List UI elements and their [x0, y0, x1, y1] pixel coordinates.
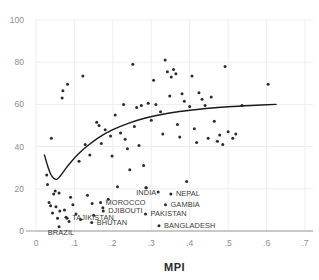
scatter-point — [56, 217, 59, 220]
scatter-point — [137, 144, 140, 147]
scatter-point — [131, 63, 134, 66]
scatter-point — [71, 203, 74, 206]
scatter-point — [170, 75, 173, 78]
scatter-point — [227, 130, 230, 133]
scatter-point — [49, 204, 52, 207]
country-label-gambia: GAMBIA — [171, 200, 200, 209]
scatter-point — [66, 83, 69, 86]
scatter-point — [204, 104, 207, 107]
scatter-point — [58, 209, 61, 212]
scatter-point — [100, 142, 103, 145]
scatter-point — [91, 202, 94, 205]
scatter-point — [267, 83, 270, 86]
annotation-layer: INDIANEPALGAMBIAPAKISTANBANGLADESHMOROCC… — [48, 186, 216, 237]
scatter-point — [86, 194, 89, 197]
scatter-point — [61, 97, 64, 100]
scatter-point — [95, 121, 98, 124]
scatter-point — [234, 132, 237, 135]
scatter-point — [50, 137, 53, 140]
scatter-points-layer — [45, 59, 269, 223]
scatter-point — [164, 59, 167, 62]
scatter-point — [201, 98, 204, 101]
y-tick-label: 100 — [10, 15, 24, 25]
scatter-point — [183, 100, 186, 103]
scatter-point — [109, 135, 112, 138]
scatter-point — [159, 110, 162, 113]
scatter-point — [216, 140, 219, 143]
scatter-point — [185, 180, 188, 183]
scatter-point — [224, 65, 227, 68]
scatter-point — [218, 134, 221, 137]
country-label-pakistan: PAKISTAN — [151, 209, 187, 218]
annotated-point-morocco — [99, 201, 102, 204]
country-label-bangladesh: BANGLADESH — [164, 221, 216, 230]
scatter-point — [124, 138, 127, 141]
scatter-point — [221, 143, 224, 146]
x-tick-label: .2 — [109, 238, 116, 248]
scatter-point — [88, 154, 91, 157]
scatter-point — [81, 74, 84, 77]
scatter-point — [51, 212, 54, 215]
scatter-point — [116, 185, 119, 188]
country-label-tajikistan: TAJIKISTAN — [72, 213, 114, 222]
scatter-point — [61, 89, 64, 92]
scatter-point — [157, 190, 160, 193]
annotated-point-pakistan — [144, 213, 147, 216]
annotated-point-gambia — [164, 203, 167, 206]
x-tick-label: .3 — [148, 238, 155, 248]
scatter-point — [195, 141, 198, 144]
annotated-point-bangladesh — [157, 224, 160, 227]
scatter-point — [168, 94, 171, 97]
scatter-point — [101, 206, 104, 209]
scatter-point — [119, 131, 122, 134]
scatter-point — [176, 123, 179, 126]
scatter-point — [54, 205, 57, 208]
scatter-point — [128, 168, 131, 171]
country-label-india: INDIA — [136, 188, 156, 197]
scatter-point — [193, 127, 196, 130]
axis-layer — [26, 20, 313, 231]
scatter-point — [58, 192, 61, 195]
scatter-point — [207, 137, 210, 140]
mpi-scatter-chart: 0204060801000.1.2.3.4.5.6.7 INDIANEPALGA… — [0, 0, 319, 280]
axis-title-layer: MPI — [164, 261, 185, 273]
country-label-nepal: NEPAL — [176, 189, 200, 198]
lowess-fit-curve — [44, 104, 276, 179]
y-tick-label: 60 — [15, 99, 25, 109]
scatter-point — [45, 174, 48, 177]
scatter-point — [114, 113, 117, 116]
fit-curve-layer — [44, 104, 276, 179]
scatter-point — [150, 119, 153, 122]
country-label-brazil: BRAZIL — [48, 228, 74, 237]
scatter-point — [152, 79, 155, 82]
scatter-point — [133, 125, 136, 128]
scatter-point — [63, 208, 66, 211]
x-tick-label: .4 — [186, 238, 193, 248]
annotated-point-djibouti — [102, 209, 105, 212]
scatter-point — [210, 96, 213, 99]
scatter-point — [188, 105, 191, 108]
scatter-point — [84, 143, 87, 146]
scatter-point — [104, 128, 107, 131]
scatter-point — [191, 74, 194, 77]
scatter-point — [78, 160, 81, 163]
scatter-point — [126, 147, 129, 150]
scatter-point — [172, 68, 175, 71]
y-tick-label: 80 — [15, 57, 25, 67]
scatter-point — [166, 70, 169, 73]
scatter-point — [68, 220, 71, 223]
scatter-point — [181, 92, 184, 95]
y-tick-label: 40 — [15, 142, 25, 152]
scatter-point — [122, 103, 125, 106]
scatter-point — [154, 103, 157, 106]
scatter-point — [174, 72, 177, 75]
scatter-point — [231, 137, 234, 140]
scatter-point — [147, 102, 150, 105]
x-tick-label: .5 — [225, 238, 232, 248]
scatter-point — [69, 196, 72, 199]
scatter-point — [161, 132, 164, 135]
scatter-point — [135, 106, 138, 109]
y-tick-label: 0 — [19, 226, 24, 236]
annotated-point-nepal — [169, 193, 172, 196]
x-tick-label: 0 — [34, 238, 39, 248]
